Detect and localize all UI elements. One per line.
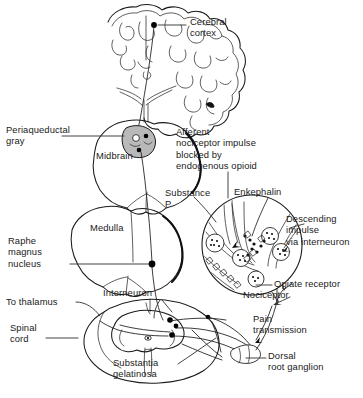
label-substantia-gelatinosa: Substantia gelatinosa [113, 357, 158, 380]
label-dorsal-root-ganglion: Dorsal root ganglion [268, 350, 324, 373]
projection-neuron-node [169, 332, 175, 338]
label-to-thalamus: To thalamus [6, 296, 58, 307]
spinothalamic-tract-b [120, 325, 170, 332]
label-cerebral-cortex: Cerebral cortex [190, 16, 227, 39]
interneuron-node-upper [167, 317, 173, 323]
label-descending-impulse: Descending impulse via interneuron [286, 213, 350, 247]
label-substance-p: Substance P [165, 187, 210, 210]
leader-substantia-gelatinosa [178, 338, 216, 364]
leader-interneuron [162, 300, 172, 312]
label-pain-transmission: Pain transmission [253, 313, 307, 336]
label-opiate-receptor: Opiate receptor [274, 278, 340, 289]
label-nociceptor: Nociceptor [243, 289, 289, 300]
dorsal-root-ganglion-shape [231, 345, 261, 364]
midline-structures [117, 16, 176, 122]
label-spinal-cord: Spinal cord [10, 322, 37, 345]
label-afferent-nociceptor-blocked: Afferent nociceptor impulse blocked by e… [176, 126, 257, 172]
cortex-markers [206, 103, 214, 108]
label-medulla: Medulla [90, 222, 124, 233]
raphe-magnus-node [149, 261, 156, 268]
pain-pathway-figure: Cerebral cortex Periaqueductal gray Midb… [0, 0, 363, 398]
label-enkephalin: Enkephalin [234, 186, 281, 197]
leader-to-thalamus [76, 302, 100, 316]
medulla-outline [71, 206, 182, 296]
pag-to-raphe-fibre [141, 152, 152, 262]
label-periaqueductal-gray: Periaqueductal gray [6, 124, 70, 147]
label-raphe-magnus-nucleus: Raphe magnus nucleus [8, 235, 42, 269]
cortical-gyri-left [112, 22, 155, 88]
label-interneuron: Interneuron [103, 287, 152, 298]
label-midbrain: Midbrain [96, 150, 133, 161]
